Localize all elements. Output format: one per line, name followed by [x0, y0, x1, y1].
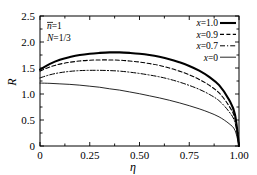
- annotation-capital-n: N=1/3: [46, 33, 71, 43]
- curve-x-0: [40, 83, 239, 146]
- legend-entry-x-0: x=0: [203, 53, 236, 63]
- x-tick-label: 0.75: [180, 149, 200, 161]
- chart-figure: 00.250.500.751.0000.51.01.52.02.5 n=1N=1…: [0, 0, 257, 175]
- x-tick-label: 0: [37, 149, 43, 161]
- x-axis-title: η: [130, 160, 136, 174]
- curve-x-0-7: [40, 70, 239, 146]
- legend-label: x=0.9: [196, 30, 219, 40]
- legend-entry-x-0-9: x=0.9: [196, 30, 236, 40]
- chart-plot-area: 00.250.500.751.0000.51.01.52.02.5 n=1N=1…: [0, 0, 257, 175]
- y-tick-label: 2.5: [21, 10, 35, 22]
- x-tick-label: 0.25: [80, 149, 100, 161]
- legend-label: x=0: [203, 53, 219, 63]
- y-tick-label: 2.0: [21, 36, 35, 48]
- curve-x-1-0: [40, 52, 239, 146]
- plot-annotations: n=1N=1/3: [46, 21, 71, 43]
- annotation-nbar: n=1: [47, 21, 62, 31]
- y-tick-label: 0.5: [21, 114, 35, 126]
- y-tick-label: 0: [30, 140, 36, 152]
- legend-label: x=0.7: [196, 41, 219, 51]
- y-tick-label: 1.0: [21, 88, 35, 100]
- legend-entry-x-1-0: x=1.0: [196, 18, 236, 28]
- curve-x-0-9: [40, 60, 239, 146]
- y-axis-title: R: [5, 78, 19, 87]
- y-tick-label: 1.5: [21, 62, 35, 74]
- legend-entry-x-0-7: x=0.7: [196, 41, 236, 51]
- curves-layer: [40, 52, 239, 146]
- x-tick-label: 1.00: [229, 149, 249, 161]
- chart-legend: x=1.0x=0.9x=0.7x=0: [196, 18, 236, 62]
- legend-label: x=1.0: [196, 18, 219, 28]
